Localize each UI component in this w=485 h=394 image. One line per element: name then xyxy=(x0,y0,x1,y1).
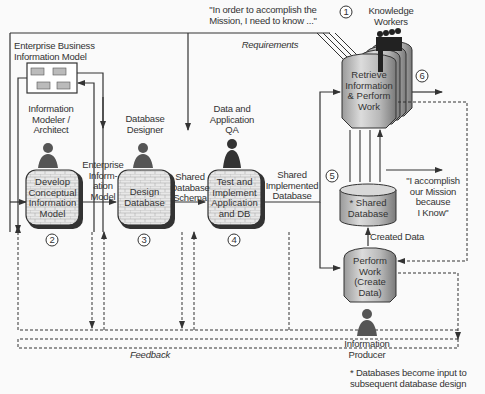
database-5-number: 5 xyxy=(326,171,338,182)
process-develop-model: Develop Conceptual Information Model xyxy=(26,177,79,219)
process-design-database: Design Database xyxy=(118,187,171,208)
shared-database-label: * Shared Database xyxy=(340,198,396,219)
process-2-number: 2 xyxy=(46,235,58,246)
shared-implemented-flow-label: Shared Implemented Database xyxy=(262,170,322,202)
process-4-number: 4 xyxy=(228,235,240,246)
shared-schema-flow-label: Shared Database Schema xyxy=(168,172,212,204)
created-data-label: Created Data xyxy=(370,232,430,243)
qa-role-label: Data and Application QA xyxy=(204,104,260,136)
process-perform-work: Perform Work (Create Data) xyxy=(344,256,396,298)
process-6-number: 6 xyxy=(416,71,428,82)
process-test-implement: Test and Implement Application and DB xyxy=(208,177,261,219)
process-3-number: 3 xyxy=(138,235,150,246)
designer-person-icon xyxy=(133,143,153,168)
need-to-know-quote: "In order to accomplish the Mission, I n… xyxy=(188,5,338,26)
designer-role-label: Database Designer xyxy=(120,114,170,135)
producer-person-icon xyxy=(357,309,377,336)
process-retrieve-information: Retrieve Information & Perform Work xyxy=(342,70,396,112)
modeler-person-icon xyxy=(38,143,58,168)
knowledge-workers-label: Knowledge Workers xyxy=(356,6,426,27)
feedback-label: Feedback xyxy=(120,350,180,361)
producer-role-label: Information Producer xyxy=(336,339,398,360)
enterprise-model-title: Enterprise Business Information Model xyxy=(14,41,104,62)
requirements-label: Requirements xyxy=(235,40,305,51)
qa-person-icon xyxy=(223,139,241,168)
i-know-quote: "I accomplish our Mission because I Know… xyxy=(398,176,468,218)
modeler-role-label: Information Modeler / Architect xyxy=(26,104,76,136)
footnote: * Databases become input to subsequent d… xyxy=(350,368,485,389)
knowledge-workers-number: 1 xyxy=(340,7,352,18)
